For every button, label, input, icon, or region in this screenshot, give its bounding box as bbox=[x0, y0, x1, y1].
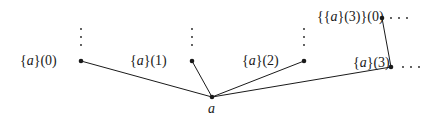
label-a0: {a}(0) bbox=[20, 54, 57, 68]
label-a1: {a}(1) bbox=[130, 54, 167, 68]
label-root-a: a bbox=[208, 102, 215, 116]
horizontal-ellipsis-a3-0 bbox=[390, 17, 408, 19]
edge-a-to-a1 bbox=[192, 61, 212, 97]
node-a1 bbox=[190, 59, 195, 64]
vertical-ellipsis-a0 bbox=[80, 28, 82, 46]
label-a2: {a}(2) bbox=[242, 54, 279, 68]
vertical-ellipsis-a2 bbox=[303, 28, 305, 46]
horizontal-ellipsis-a3 bbox=[402, 66, 420, 68]
label-a3-0: {{a}(3)}(0) bbox=[317, 10, 384, 24]
label-a3: {a}(3) bbox=[353, 56, 390, 70]
node-a2 bbox=[302, 59, 307, 64]
node-root-a bbox=[210, 95, 215, 100]
node-a0 bbox=[79, 59, 84, 64]
edge-a-to-a3 bbox=[212, 67, 391, 97]
vertical-ellipsis-a1 bbox=[191, 28, 193, 46]
